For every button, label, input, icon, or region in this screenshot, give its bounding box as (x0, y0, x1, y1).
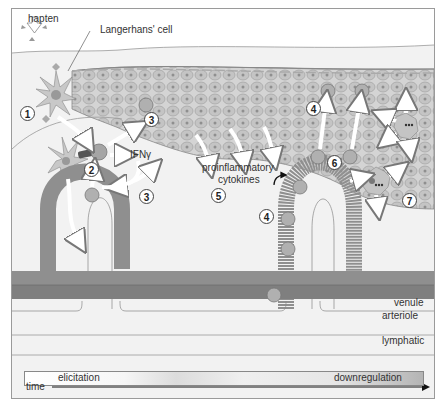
downregulation-label: downregulation (334, 373, 402, 383)
diagram-frame: hapten Langerhans' cell IFNγ proinflamma… (11, 8, 435, 399)
langerhans-cell-label: Langerhans' cell (100, 25, 173, 35)
cytokines-label: cytokines (218, 175, 260, 185)
proinflammatory-label: proinflammatory (202, 163, 274, 173)
step-1-marker: 1 (20, 106, 35, 121)
step-3-marker-dermis: 3 (139, 189, 154, 204)
venule-vessel (12, 271, 434, 285)
elicitation-label: elicitation (58, 373, 100, 383)
venule-label: venule (394, 298, 423, 308)
step-4-marker-vessel: 4 (259, 209, 274, 224)
arteriole-label: arteriole (382, 311, 418, 321)
adjacent-text-column (436, 0, 445, 405)
step-5-marker: 5 (211, 188, 226, 203)
hapten-label: hapten (28, 14, 59, 24)
step-6-marker: 6 (327, 155, 342, 170)
step-4-marker-epidermis: 4 (306, 101, 321, 116)
step-3-marker-epidermis: 3 (144, 112, 159, 127)
lymphatic-label: lymphatic (382, 336, 424, 346)
time-axis-label: time (26, 382, 45, 392)
step-7-marker: 7 (402, 193, 417, 208)
ifn-gamma-label: IFNγ (130, 150, 151, 160)
t-cell (91, 144, 107, 160)
langerhans-cell-1 (36, 71, 76, 117)
arteriole-vessel (12, 285, 434, 299)
step-2-marker: 2 (84, 162, 99, 177)
diagram-scene (12, 9, 434, 398)
